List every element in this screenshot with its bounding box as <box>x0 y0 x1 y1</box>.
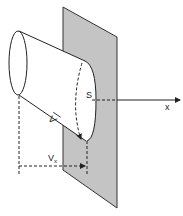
cylinder-end-ellipse <box>9 31 27 95</box>
vx-label: Vx <box>48 153 57 164</box>
flux-diagram: V Vx S x <box>0 0 183 216</box>
surface-label: S <box>86 90 92 100</box>
x-axis-label: x <box>165 102 170 112</box>
